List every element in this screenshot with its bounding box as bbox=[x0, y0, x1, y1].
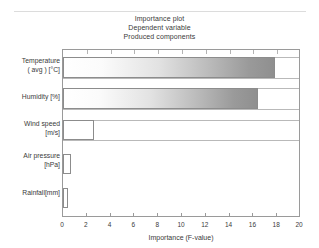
bar-guide-line bbox=[63, 120, 299, 121]
bar-air-pressure bbox=[63, 154, 71, 174]
xtick-top bbox=[158, 50, 159, 54]
chart-title: Importance plot bbox=[0, 14, 319, 23]
bar-guide-line bbox=[63, 140, 299, 141]
ytick-label-temperature: Temperature ( avg ) [°C] bbox=[2, 57, 60, 74]
plot-area bbox=[62, 49, 300, 217]
xtick-label: 20 bbox=[295, 221, 302, 228]
xtick-label: 14 bbox=[225, 221, 232, 228]
chart-title-block: Importance plot Dependent variable Produ… bbox=[0, 14, 319, 41]
ytick-label-rainfall: Rainfall[mm] bbox=[2, 189, 60, 198]
header-divider bbox=[14, 11, 306, 12]
xtick-top bbox=[111, 50, 112, 54]
xtick bbox=[86, 213, 87, 217]
xtick bbox=[110, 213, 111, 217]
ytick-label-wind-speed: Wind speed [m/s] bbox=[2, 120, 60, 137]
xtick bbox=[133, 213, 134, 217]
xtick bbox=[181, 213, 182, 217]
bar-guide-line bbox=[63, 109, 299, 110]
xtick bbox=[157, 213, 158, 217]
chart-subtitle: Dependent variable bbox=[0, 23, 319, 32]
xtick-label: 12 bbox=[201, 221, 208, 228]
xtick bbox=[276, 213, 277, 217]
xtick-label: 6 bbox=[132, 221, 136, 228]
xtick-top bbox=[182, 50, 183, 54]
xtick-label: 10 bbox=[177, 221, 184, 228]
xtick-top bbox=[230, 50, 231, 54]
ytick-label-air-pressure: Air pressure [hPa] bbox=[2, 152, 60, 169]
xtick-top bbox=[134, 50, 135, 54]
xtick-top bbox=[253, 50, 254, 54]
chart-subtitle-secondary: Produced components bbox=[0, 32, 319, 41]
xtick-label: 8 bbox=[155, 221, 159, 228]
x-axis-label: Importance (F-value) bbox=[62, 234, 300, 241]
xtick-label: 0 bbox=[60, 221, 64, 228]
ytick-label-humidity: Humidity [%] bbox=[2, 93, 60, 102]
xtick bbox=[299, 213, 300, 217]
xtick bbox=[252, 213, 253, 217]
xtick bbox=[205, 213, 206, 217]
xtick bbox=[229, 213, 230, 217]
xtick-label: 2 bbox=[84, 221, 88, 228]
bar-rainfall bbox=[63, 188, 68, 208]
xtick-label: 4 bbox=[108, 221, 112, 228]
xtick-top bbox=[206, 50, 207, 54]
xtick-top bbox=[277, 50, 278, 54]
bar-guide-line bbox=[63, 78, 299, 79]
bar-wind-speed bbox=[63, 120, 94, 140]
xtick-top bbox=[87, 50, 88, 54]
bar-humidity bbox=[63, 88, 258, 109]
x-axis: 0 2 4 6 8 10 12 14 16 18 20 bbox=[62, 217, 300, 231]
importance-plot-figure: Importance plot Dependent variable Produ… bbox=[0, 0, 319, 248]
xtick-label: 16 bbox=[249, 221, 256, 228]
bar-temperature bbox=[63, 57, 275, 78]
xtick-label: 18 bbox=[273, 221, 280, 228]
xtick bbox=[62, 213, 63, 217]
